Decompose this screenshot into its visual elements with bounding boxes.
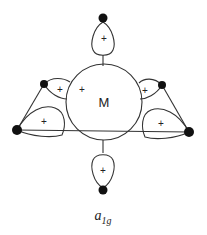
- bottom-ligand-atom: [99, 186, 108, 195]
- left-ligand-atom: [12, 125, 22, 135]
- symmetry-label: a: [95, 208, 102, 223]
- metal-label: M: [99, 95, 110, 110]
- horizontal-bond-line: [17, 130, 189, 132]
- upper-right-lobe-sign: +: [142, 86, 148, 96]
- lower-right-lobe-sign: +: [158, 119, 164, 129]
- symmetry-subscript: 1g: [102, 215, 112, 226]
- upper-left-ligand-atom: [40, 80, 48, 88]
- lower-right-ligand-lobe: [143, 109, 189, 139]
- metal-lobe-sign: +: [79, 85, 85, 95]
- top-ligand-atom: [99, 14, 108, 23]
- upper-right-ligand-atom: [158, 81, 166, 89]
- symmetry-caption: a1g: [95, 208, 112, 226]
- top-lobe-sign: +: [101, 34, 107, 44]
- lower-left-lobe-sign: +: [41, 117, 47, 127]
- right-ligand-atom: [184, 127, 194, 137]
- upper-left-lobe-sign: +: [57, 85, 63, 95]
- bottom-lobe-sign: +: [100, 166, 106, 176]
